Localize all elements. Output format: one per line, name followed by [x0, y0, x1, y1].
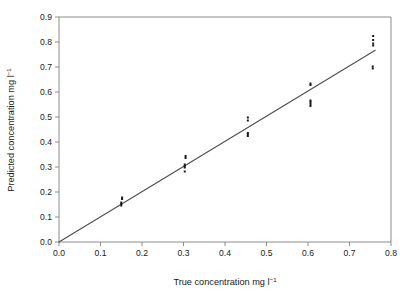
data-point [309, 103, 311, 105]
x-tick-label: 0.5 [261, 248, 273, 258]
y-tick-label: 0.0 [40, 237, 52, 247]
data-point [120, 202, 122, 204]
data-point [309, 105, 311, 107]
y-tick-label: 0.4 [40, 137, 52, 147]
data-point [372, 35, 374, 37]
x-tick-label: 0.7 [344, 248, 356, 258]
data-point [309, 100, 311, 102]
x-tick-label: 0.8 [385, 248, 397, 258]
y-axis-label-group: Predicted concentration mg l−1 [5, 68, 16, 192]
data-point [184, 171, 186, 173]
y-axis-label: Predicted concentration mg l−1 [5, 68, 16, 192]
y-tick-label: 0.3 [40, 162, 52, 172]
plot-canvas: 0.00.10.20.30.40.50.60.70.8 0.00.10.20.3… [0, 0, 417, 294]
y-tick-label: 0.2 [40, 187, 52, 197]
scatter-plot-figure: 0.00.10.20.30.40.50.60.70.8 0.00.10.20.3… [0, 0, 417, 294]
data-point [247, 117, 249, 119]
x-tick-label: 0.3 [178, 248, 190, 258]
data-point [372, 45, 374, 47]
data-point [309, 83, 311, 85]
y-tick-label: 0.6 [40, 87, 52, 97]
y-tick-label: 0.9 [40, 12, 52, 22]
x-tick-label: 0.0 [53, 248, 65, 258]
data-point [184, 164, 186, 166]
x-tick-label: 0.6 [302, 248, 314, 258]
x-tick-label: 0.1 [95, 248, 107, 258]
data-point [185, 157, 187, 159]
x-tick-label: 0.4 [219, 248, 231, 258]
x-tick-label: 0.2 [136, 248, 148, 258]
x-axis-label: True concentration mg l−1 [173, 276, 277, 287]
data-point [372, 66, 374, 68]
data-point [372, 39, 374, 41]
y-tick-label: 0.1 [40, 212, 52, 222]
y-tick-label: 0.8 [40, 37, 52, 47]
y-tick-label: 0.7 [40, 62, 52, 72]
data-point [372, 43, 374, 45]
x-axis-tick-labels: 0.00.10.20.30.40.50.60.70.8 [53, 248, 397, 258]
data-point [185, 155, 187, 157]
data-point [121, 197, 123, 199]
data-point [247, 132, 249, 134]
data-point [247, 120, 249, 122]
data-point [372, 68, 374, 70]
y-tick-label: 0.5 [40, 112, 52, 122]
